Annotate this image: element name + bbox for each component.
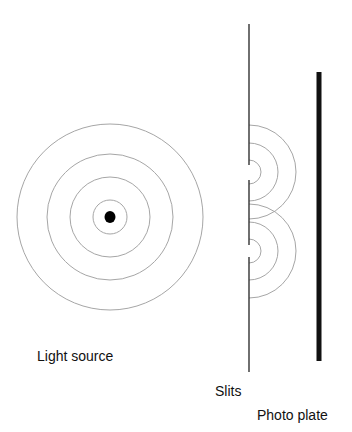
light-source-label: Light source [37, 348, 113, 364]
slits-label: Slits [215, 383, 241, 399]
photo-plate-label: Photo plate [257, 407, 328, 423]
light-source-dot [105, 211, 116, 223]
photo-plate [317, 72, 322, 361]
diagram-canvas [0, 0, 352, 432]
